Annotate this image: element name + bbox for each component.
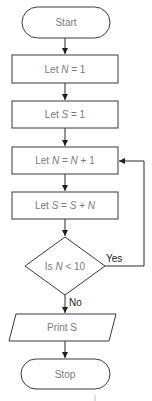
node-label: Let N = 1 xyxy=(45,64,86,75)
node-check: Is N < 10 xyxy=(25,237,105,295)
edge-label-no: No xyxy=(69,297,82,308)
node-label: Let S = S + N xyxy=(35,200,96,211)
node-label: Let N = N + 1 xyxy=(35,155,95,166)
node-stop: Stop xyxy=(21,359,110,389)
node-init-n: Let N = 1 xyxy=(12,55,118,83)
node-label: Print S xyxy=(47,322,77,333)
node-print: Print S xyxy=(9,314,116,341)
flowchart-canvas: Start Let N = 1 Let S = 1 Let N = N + 1 … xyxy=(0,0,152,401)
node-inc-n: Let N = N + 1 xyxy=(12,147,118,174)
node-start: Start xyxy=(22,7,110,38)
node-label: Start xyxy=(55,17,76,28)
node-init-s: Let S = 1 xyxy=(12,101,118,128)
node-label: Is N < 10 xyxy=(45,261,86,272)
edge-label-yes: Yes xyxy=(106,253,122,264)
node-label: Let S = 1 xyxy=(45,109,86,120)
node-add-s: Let S = S + N xyxy=(12,192,118,219)
node-label: Stop xyxy=(55,369,76,380)
